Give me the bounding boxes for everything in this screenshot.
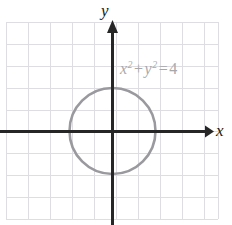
equation-plus-operator: + [133,60,145,77]
equation-equals-operator: = [158,60,170,77]
arrow-right-icon [205,126,214,138]
equation-x-variable: x [120,60,128,77]
equation-value: 4 [169,60,178,77]
equation-y-exponent: 2 [152,59,157,70]
equation-annotation: x2+y2=4 [120,59,178,78]
coordinate-plane-svg [0,0,232,225]
x-axis-label: x [216,122,224,139]
circle-graph-figure: y x x2+y2=4 [0,0,232,225]
y-axis-label: y [101,2,109,19]
